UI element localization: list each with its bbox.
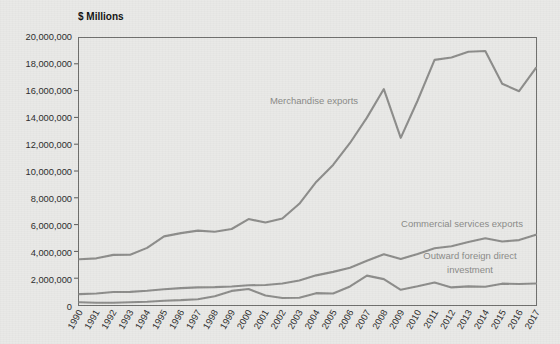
x-tick-label: 2014: [472, 308, 491, 331]
x-tick-label: 1996: [167, 308, 186, 331]
x-tick-label: 2008: [371, 308, 390, 331]
x-tick-label: 2004: [303, 308, 322, 331]
x-tick-label: 1993: [117, 308, 136, 331]
x-tick-label: 1994: [133, 308, 152, 331]
x-tick-label: 2002: [269, 308, 288, 331]
y-tick-label: 2,000,000: [31, 275, 72, 285]
y-tick-label: 4,000,000: [31, 248, 72, 258]
x-tick-label: 2015: [489, 308, 508, 331]
y-tick-label: 10,000,000: [25, 167, 72, 177]
y-axis-tick-marks: [74, 64, 78, 278]
y-tick-label: 0: [67, 302, 72, 312]
series-line-outward-fdi: [80, 276, 537, 303]
x-tick-label: 2017: [523, 308, 542, 331]
y-tick-label: 8,000,000: [31, 194, 72, 204]
annotation-outward-fdi-line2: investment: [447, 264, 493, 275]
x-tick-label: 2011: [422, 308, 441, 330]
x-tick-label: 2012: [438, 308, 457, 331]
x-tick-label: 2001: [252, 308, 271, 331]
annotation-commercial-services-exports: Commercial services exports: [401, 218, 523, 229]
y-tick-label: 16,000,000: [25, 86, 72, 96]
x-tick-label: 2003: [286, 308, 305, 331]
annotation-outward-fdi-line1: Outward foreign direct: [423, 250, 517, 261]
x-tick-label: 2010: [404, 308, 423, 331]
x-tick-label: 2013: [455, 308, 474, 331]
x-tick-label: 1999: [218, 308, 237, 331]
x-tick-label: 2016: [506, 308, 525, 331]
chart-unit-title: $ Millions: [78, 11, 124, 22]
y-tick-label: 18,000,000: [25, 59, 72, 69]
y-tick-label: 20,000,000: [25, 32, 72, 42]
annotation-merchandise-exports: Merchandise exports: [270, 95, 358, 106]
x-tick-label: 2000: [235, 308, 254, 331]
y-tick-label: 14,000,000: [25, 113, 72, 123]
y-tick-label: 12,000,000: [25, 140, 72, 150]
x-tick-label: 2009: [387, 308, 406, 331]
line-chart: 20,000,000 18,000,000 16,000,000 14,000,…: [0, 0, 560, 344]
x-tick-label: 1995: [150, 308, 169, 331]
x-tick-label: 1998: [201, 308, 220, 331]
x-tick-label: 1992: [100, 308, 119, 331]
x-axis-tick-labels: 1990 1991 1992 1993 1994 1995 1996 1997 …: [66, 308, 542, 331]
x-tick-label: 2007: [354, 308, 373, 331]
x-tick-label: 2005: [320, 308, 339, 331]
x-tick-label: 1991: [83, 308, 102, 331]
chart-container: 20,000,000 18,000,000 16,000,000 14,000,…: [0, 0, 560, 344]
y-axis-tick-labels: 20,000,000 18,000,000 16,000,000 14,000,…: [25, 32, 72, 312]
series-annotations: Merchandise exports Commercial services …: [270, 95, 523, 275]
y-tick-label: 6,000,000: [31, 221, 72, 231]
x-tick-label: 2006: [337, 308, 356, 331]
x-tick-label: 1997: [184, 308, 203, 331]
